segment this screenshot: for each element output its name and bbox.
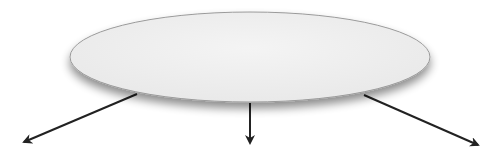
central-ellipse-node [70,12,430,102]
arrow-left [24,94,137,142]
branching-diagram [0,0,504,163]
arrow-right [364,95,478,145]
